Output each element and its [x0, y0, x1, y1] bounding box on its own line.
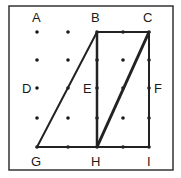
diagonal-ch	[97, 32, 149, 147]
label-f: F	[154, 81, 162, 96]
label-d: D	[22, 81, 31, 96]
label-i: I	[147, 154, 151, 169]
label-g: G	[31, 154, 41, 169]
label-b: B	[91, 10, 100, 25]
label-c: C	[143, 10, 152, 25]
label-a: A	[32, 10, 41, 25]
point-labels: A B C D E F G H I	[22, 10, 162, 169]
label-e: E	[83, 81, 92, 96]
label-h: H	[91, 154, 100, 169]
grid-dots	[35, 30, 151, 149]
geoboard-diagram: A B C D E F G H I	[0, 0, 181, 178]
